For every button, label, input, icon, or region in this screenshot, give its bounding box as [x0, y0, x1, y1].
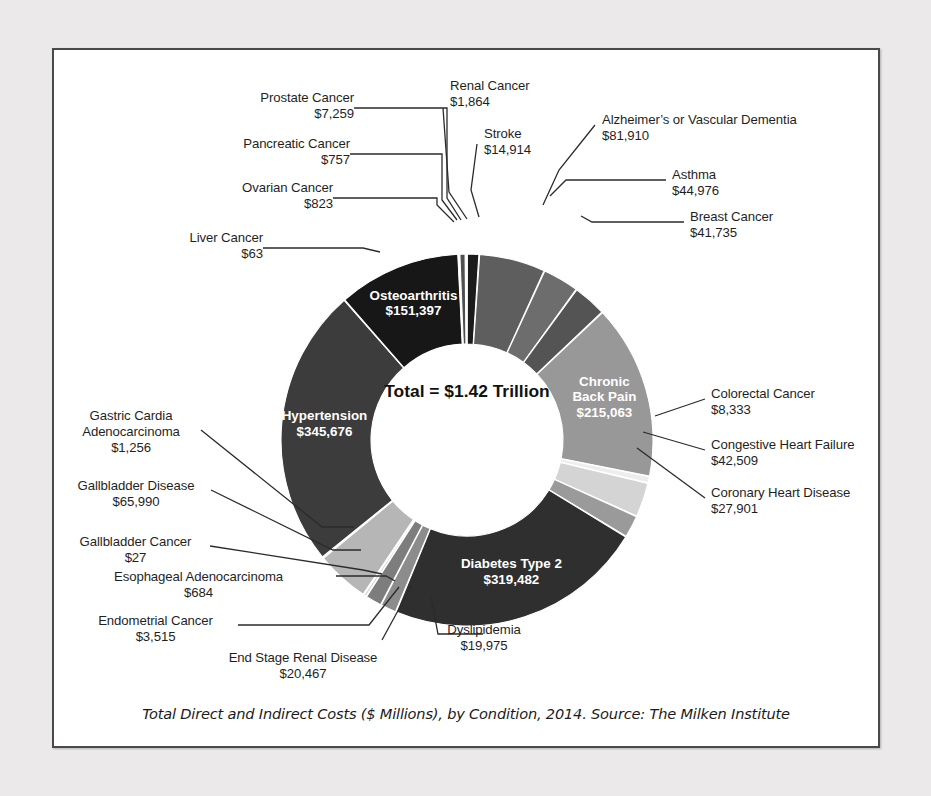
callout-gallbladder-cancer-name: Gallbladder Cancer	[80, 534, 192, 549]
callout-renal-cancer-value: $1,864	[450, 94, 529, 110]
leader-ovarian-cancer	[333, 198, 454, 222]
leader-alzheimers	[543, 125, 595, 205]
callout-gallbladder-cancer-value: $27	[60, 550, 211, 566]
callout-alzheimers: Alzheimer’s or Vascular Dementia $81,910	[602, 112, 797, 144]
callout-end-stage-renal-disease-name: End Stage Renal Disease	[229, 650, 378, 665]
slice-inside-label: ChronicBack Pain$215,063	[572, 374, 636, 420]
callout-dyslipidemia-value: $19,975	[434, 638, 534, 654]
callout-congestive-heart-failure-name: Congestive Heart Failure	[711, 437, 854, 452]
callout-breast-cancer-name: Breast Cancer	[690, 209, 773, 224]
callout-coronary-heart-disease-name: Coronary Heart Disease	[711, 485, 850, 500]
callout-gallbladder-disease-name: Gallbladder Disease	[78, 478, 195, 493]
callout-asthma: Asthma $44,976	[672, 167, 719, 199]
leader-stroke	[471, 144, 479, 217]
callout-prostate-cancer-value: $7,259	[96, 106, 354, 122]
callout-breast-cancer: Breast Cancer $41,735	[690, 209, 773, 241]
callout-alzheimers-name: Alzheimer’s or Vascular Dementia	[602, 112, 797, 127]
callout-ovarian-cancer-value: $823	[74, 196, 333, 212]
callout-ovarian-cancer: Ovarian Cancer $823	[74, 180, 333, 212]
callout-gallbladder-cancer: Gallbladder Cancer $27	[60, 534, 211, 566]
leader-asthma	[550, 180, 666, 196]
callout-gastric-cardia-value: $1,256	[60, 440, 202, 456]
callout-liver-cancer: Liver Cancer $63	[74, 230, 263, 262]
callout-stroke-value: $14,914	[484, 142, 531, 158]
chart-caption: Total Direct and Indirect Costs ($ Milli…	[54, 705, 878, 722]
callout-congestive-heart-failure: Congestive Heart Failure $42,509	[711, 437, 854, 469]
chart-frame: ChronicBack Pain$215,063Diabetes Type 2$…	[52, 48, 880, 748]
donut-slice[interactable]	[466, 254, 467, 344]
callout-stroke: Stroke $14,914	[484, 126, 531, 158]
callout-asthma-value: $44,976	[672, 183, 719, 199]
callout-prostate-cancer-name: Prostate Cancer	[260, 90, 354, 105]
callout-gastric-cardia-line1: Gastric Cardia	[90, 408, 173, 423]
callout-prostate-cancer: Prostate Cancer $7,259	[96, 90, 354, 122]
callout-colorectal-cancer-value: $8,333	[711, 402, 815, 418]
callout-colorectal-cancer: Colorectal Cancer $8,333	[711, 386, 815, 418]
leader-pancreatic-cancer	[350, 154, 457, 220]
callout-liver-cancer-name: Liver Cancer	[189, 230, 263, 245]
callout-coronary-heart-disease: Coronary Heart Disease $27,901	[711, 485, 850, 517]
callout-gastric-cardia-line2: Adenocarcinoma	[60, 424, 202, 440]
callout-pancreatic-cancer: Pancreatic Cancer $757	[74, 136, 350, 168]
callout-endometrial-cancer: Endometrial Cancer $3,515	[72, 613, 239, 645]
callout-stroke-name: Stroke	[484, 126, 522, 141]
callout-alzheimers-value: $81,910	[602, 128, 797, 144]
callout-endometrial-cancer-value: $3,515	[72, 629, 239, 645]
callout-coronary-heart-disease-value: $27,901	[711, 501, 850, 517]
callout-dyslipidemia: Dyslipidemia $19,975	[434, 622, 534, 654]
callout-liver-cancer-value: $63	[74, 246, 263, 262]
callout-end-stage-renal-disease: End Stage Renal Disease $20,467	[224, 650, 382, 682]
callout-breast-cancer-value: $41,735	[690, 225, 773, 241]
callout-asthma-name: Asthma	[672, 167, 716, 182]
callout-gallbladder-disease-value: $65,990	[60, 494, 212, 510]
callout-endometrial-cancer-name: Endometrial Cancer	[98, 613, 213, 628]
callout-colorectal-cancer-name: Colorectal Cancer	[711, 386, 815, 401]
leader-colorectal-cancer	[655, 399, 705, 416]
callout-dyslipidemia-name: Dyslipidemia	[447, 622, 521, 637]
callout-end-stage-renal-disease-value: $20,467	[224, 666, 382, 682]
callout-renal-cancer: Renal Cancer $1,864	[450, 78, 529, 110]
center-total-label: Total = $1.42 Trillion	[384, 381, 549, 401]
callout-renal-cancer-name: Renal Cancer	[450, 78, 529, 93]
callout-pancreatic-cancer-value: $757	[74, 152, 350, 168]
leader-liver-cancer	[263, 248, 380, 252]
leader-breast-cancer	[581, 216, 684, 222]
callout-esophageal-adenocarcinoma-name: Esophageal Adenocarcinoma	[114, 569, 283, 584]
callout-gastric-cardia-adenocarcinoma: Gastric Cardia Adenocarcinoma $1,256	[60, 408, 202, 457]
callout-esophageal-adenocarcinoma: Esophageal Adenocarcinoma $684	[60, 569, 337, 601]
callout-ovarian-cancer-name: Ovarian Cancer	[242, 180, 333, 195]
callout-gallbladder-disease: Gallbladder Disease $65,990	[60, 478, 212, 510]
callout-pancreatic-cancer-name: Pancreatic Cancer	[243, 136, 350, 151]
callout-congestive-heart-failure-value: $42,509	[711, 453, 854, 469]
callout-esophageal-adenocarcinoma-value: $684	[60, 585, 337, 601]
